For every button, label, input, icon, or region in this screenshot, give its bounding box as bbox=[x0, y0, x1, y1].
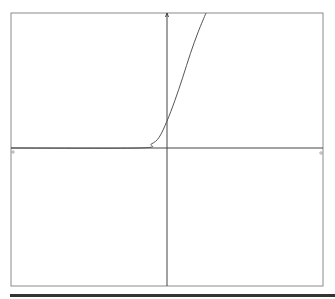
x-axis-left-tick-icon bbox=[12, 151, 14, 153]
x-axis-right-tick-icon bbox=[320, 152, 322, 154]
data-curve bbox=[11, 13, 206, 148]
plot-area bbox=[0, 0, 335, 299]
bottom-rule bbox=[10, 294, 335, 297]
